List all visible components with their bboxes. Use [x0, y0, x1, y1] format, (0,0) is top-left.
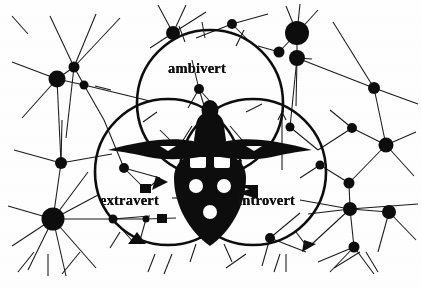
network-node — [379, 138, 394, 153]
shield-dot — [189, 179, 203, 193]
network-node — [286, 123, 295, 132]
venn-label-ambivert: ambivert — [168, 60, 226, 77]
network-node — [285, 21, 309, 45]
network-node — [274, 47, 285, 58]
network-edges-top — [150, 5, 268, 112]
network-node — [349, 242, 360, 253]
shield-dot — [203, 205, 217, 219]
venn-diagram-image: ambivert extravert introvert — [0, 0, 421, 287]
network-node — [119, 163, 129, 173]
network-node — [316, 161, 325, 170]
diagram-canvas — [0, 0, 421, 287]
network-node — [143, 216, 150, 223]
network-node — [49, 71, 66, 88]
network-node — [289, 50, 305, 66]
network-node — [194, 84, 204, 94]
network-node — [80, 81, 89, 90]
network-node — [382, 205, 396, 219]
venn-label-introvert: introvert — [238, 192, 295, 209]
network-node — [343, 202, 357, 216]
square-marker — [157, 214, 167, 223]
network-node — [368, 82, 380, 94]
figure-head — [202, 100, 219, 120]
triangle-marker — [152, 176, 168, 190]
network-node — [55, 157, 67, 169]
network-node — [227, 19, 237, 29]
network-node — [347, 123, 357, 133]
venn-label-extravert: extravert — [100, 192, 159, 209]
network-node — [344, 178, 355, 189]
network-node — [42, 208, 65, 231]
network-node — [69, 62, 80, 73]
shield-dot — [217, 179, 231, 193]
